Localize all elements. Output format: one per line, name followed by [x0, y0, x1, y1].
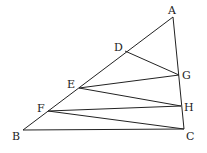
segment-HF [48, 106, 181, 111]
triangle-diagram: ABCDEFGH [0, 0, 207, 153]
labels: ABCDEFGH [12, 4, 194, 143]
point-label-F: F [37, 102, 45, 115]
segment-EH [79, 88, 181, 106]
segment-BC [23, 129, 184, 130]
point-label-C: C [186, 130, 194, 143]
segment-DG [125, 51, 179, 75]
segment-AB [23, 17, 173, 130]
point-label-H: H [184, 101, 194, 114]
point-label-A: A [167, 4, 177, 17]
point-label-B: B [12, 130, 20, 143]
segment-FC [48, 111, 184, 129]
point-label-D: D [114, 41, 123, 54]
segments [23, 17, 184, 130]
point-label-G: G [182, 69, 191, 82]
point-label-E: E [67, 78, 75, 91]
